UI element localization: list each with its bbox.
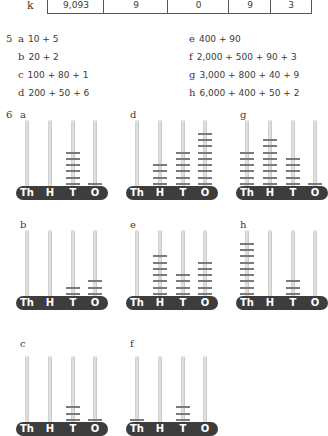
abacus-label: d <box>130 109 136 120</box>
table-cell-hundreds: 0 <box>167 0 229 14</box>
exercise-5g: g3,000 + 800 + 40 + 9 <box>189 69 299 80</box>
place-value-label: T <box>173 297 193 308</box>
abacus-bead <box>88 287 102 289</box>
abacus-rod <box>48 120 52 187</box>
abacus-bead <box>198 164 212 166</box>
abacus-base: ThHTO <box>126 296 218 310</box>
place-value-label: Th <box>237 187 257 198</box>
abacus-bead <box>198 158 212 160</box>
place-value-label: O <box>85 187 105 198</box>
abacus-rod <box>268 230 272 297</box>
abacus-bead <box>153 274 167 276</box>
place-value-label: O <box>195 423 215 434</box>
abacus-bead <box>88 183 102 185</box>
abacus-base: ThHTO <box>236 186 328 200</box>
table-cell-tens: 9 <box>228 0 271 14</box>
abacus-rod <box>181 230 185 297</box>
abacus-bead <box>198 280 212 282</box>
abacus-bead <box>66 419 80 421</box>
abacus-bead <box>240 268 254 270</box>
abacus-rod <box>135 120 139 187</box>
item-text: 6,000 + 400 + 50 + 2 <box>199 88 299 98</box>
abacus-f: ThHTO <box>126 356 218 436</box>
abacus-bead <box>263 170 277 172</box>
abacus-b: ThHTO <box>16 230 108 310</box>
place-value-label: T <box>63 423 83 434</box>
item-text: 20 + 2 <box>28 52 58 62</box>
abacus-bead <box>176 164 190 166</box>
abacus-bead <box>176 406 190 408</box>
abacus-d: ThHTO <box>126 120 218 200</box>
abacus-bead <box>88 419 102 421</box>
abacus-label: b <box>20 219 26 230</box>
place-value-label: Th <box>237 297 257 308</box>
item-text: 2,000 + 500 + 90 + 3 <box>197 52 297 62</box>
exercise-5c: c100 + 80 + 1 <box>18 69 89 80</box>
item-text: 10 + 5 <box>28 34 58 44</box>
place-value-label: H <box>150 297 170 308</box>
exercise-5h: h6,000 + 400 + 50 + 2 <box>189 87 299 98</box>
abacus-rod <box>158 120 162 187</box>
place-value-label: H <box>40 423 60 434</box>
abacus-bead <box>198 262 212 264</box>
abacus-bead <box>286 164 300 166</box>
abacus-label: c <box>20 338 26 349</box>
exercise-5f: f2,000 + 500 + 90 + 3 <box>189 51 297 62</box>
abacus-bead <box>176 274 190 276</box>
item-letter: h <box>189 87 195 98</box>
abacus-bead <box>286 280 300 282</box>
abacus-bead <box>176 170 190 172</box>
abacus-bead <box>66 177 80 179</box>
place-value-label: O <box>195 297 215 308</box>
exercise-5e: e400 + 90 <box>189 33 241 44</box>
abacus-rod <box>25 356 29 423</box>
abacus-label: e <box>130 219 136 230</box>
abacus-bead <box>286 293 300 295</box>
abacus-bead <box>198 177 212 179</box>
abacus-rod <box>48 230 52 297</box>
place-value-label: H <box>40 187 60 198</box>
abacus-rod <box>181 356 185 423</box>
abacus-bead <box>176 177 190 179</box>
abacus-bead <box>66 164 80 166</box>
abacus-bead <box>240 243 254 245</box>
place-value-label: Th <box>127 187 147 198</box>
abacus-bead <box>263 145 277 147</box>
abacus-bead <box>240 262 254 264</box>
abacus-rod <box>291 120 295 187</box>
place-value-label: T <box>173 187 193 198</box>
abacus-bead <box>286 287 300 289</box>
abacus-bead <box>153 262 167 264</box>
abacus-bead <box>240 280 254 282</box>
abacus-bead <box>198 170 212 172</box>
abacus-base: ThHTO <box>16 422 108 436</box>
abacus-label: g <box>240 109 246 120</box>
abacus-e: ThHTO <box>126 230 218 310</box>
item-text: 200 + 50 + 6 <box>28 88 89 98</box>
abacus-bead <box>66 170 80 172</box>
place-value-label: O <box>305 297 325 308</box>
place-value-label: Th <box>17 423 37 434</box>
place-value-label: Th <box>127 423 147 434</box>
abacus-bead <box>66 152 80 154</box>
abacus-c: ThHTO <box>16 356 108 436</box>
abacus-bead <box>263 177 277 179</box>
abacus-bead <box>198 293 212 295</box>
abacus-bead <box>240 293 254 295</box>
abacus-bead <box>176 158 190 160</box>
abacus-bead <box>240 164 254 166</box>
abacus-bead <box>176 152 190 154</box>
abacus-bead <box>198 287 212 289</box>
abacus-rod <box>135 356 139 423</box>
abacus-bead <box>130 419 144 421</box>
abacus-rod <box>313 120 317 187</box>
table-cell-ones: 3 <box>270 0 312 14</box>
item-text: 400 + 90 <box>199 34 241 44</box>
abacus-bead <box>153 164 167 166</box>
place-value-label: Th <box>17 297 37 308</box>
abacus-rod <box>135 230 139 297</box>
abacus-bead <box>198 183 212 185</box>
abacus-bead <box>153 177 167 179</box>
abacus-a: ThHTO <box>16 120 108 200</box>
item-letter: e <box>189 33 195 44</box>
